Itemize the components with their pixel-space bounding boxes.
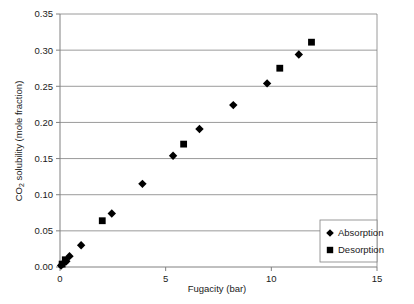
y-tick-label: 0.20 <box>35 117 54 128</box>
series-absorption <box>57 50 303 269</box>
x-tick-label: 10 <box>266 273 277 284</box>
data-point-square <box>276 65 283 72</box>
data-point-square <box>180 141 187 148</box>
x-tick-label: 0 <box>57 273 62 284</box>
data-point-diamond <box>108 209 116 217</box>
data-point-diamond <box>138 180 146 188</box>
legend-label: Desorption <box>338 244 384 255</box>
y-tick-label: 0.30 <box>35 45 54 56</box>
data-series <box>57 39 315 270</box>
y-tick-label: 0.25 <box>35 81 54 92</box>
x-tick-label: 5 <box>163 273 168 284</box>
y-tick-label: 0.00 <box>35 261 54 272</box>
legend-box <box>320 220 377 262</box>
series-desorption <box>59 39 315 268</box>
legend-label: Absorption <box>338 227 383 238</box>
y-tick-label: 0.35 <box>35 8 54 19</box>
x-axis-title: Fugacity (bar) <box>188 283 247 294</box>
data-point-diamond <box>229 101 237 109</box>
data-point-square <box>308 39 315 46</box>
legend-marker-square <box>327 247 333 253</box>
data-point-diamond <box>195 125 203 133</box>
data-point-diamond <box>295 50 303 58</box>
scatter-plot: 051015 0.000.050.100.150.200.250.300.35 … <box>0 0 414 304</box>
gridlines <box>60 14 377 231</box>
data-point-diamond <box>77 241 85 249</box>
x-axis-ticks: 051015 <box>57 267 382 284</box>
x-tick-label: 15 <box>372 273 383 284</box>
data-point-square <box>99 217 106 224</box>
y-axis-title: CO2 solubility (mole fraction) <box>13 81 25 202</box>
chart-legend: AbsorptionDesorption <box>320 220 384 262</box>
y-axis-ticks: 0.000.050.100.150.200.250.300.35 <box>35 8 61 272</box>
y-tick-label: 0.15 <box>35 153 54 164</box>
data-point-square <box>62 256 69 263</box>
chart-container: 051015 0.000.050.100.150.200.250.300.35 … <box>0 0 414 304</box>
y-tick-label: 0.05 <box>35 225 54 236</box>
y-tick-label: 0.10 <box>35 189 54 200</box>
